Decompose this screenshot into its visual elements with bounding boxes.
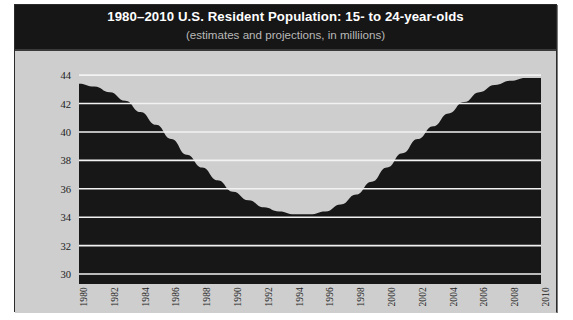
x-tick-label-1986: 1986 <box>171 287 181 307</box>
x-tick-label-2002: 2002 <box>418 287 428 307</box>
y-tick-label-40: 40 <box>60 126 71 137</box>
y-tick-label-30: 30 <box>60 269 71 280</box>
y-axis: 3032343638404244 <box>15 68 75 284</box>
x-tick-label-2006: 2006 <box>479 287 489 307</box>
x-tick-label-1988: 1988 <box>202 287 212 307</box>
y-tick-label-36: 36 <box>60 183 71 194</box>
x-tick-label-1984: 1984 <box>141 287 151 307</box>
area-chart-svg <box>79 68 541 284</box>
x-tick-label-2010: 2010 <box>541 287 551 307</box>
y-tick-label-42: 42 <box>60 98 71 109</box>
x-tick-label-1996: 1996 <box>325 287 335 307</box>
x-tick-label-2008: 2008 <box>510 287 520 307</box>
plot-area <box>79 68 541 284</box>
plot-wrap <box>79 68 541 284</box>
x-tick-label-1982: 1982 <box>110 287 120 307</box>
y-tick-label-44: 44 <box>60 70 71 81</box>
chart-body: 3032343638404244 19801982198419861988199… <box>15 49 556 313</box>
x-axis: 1980198219841986198819901992199419961998… <box>79 287 541 317</box>
x-tick-label-1992: 1992 <box>264 287 274 307</box>
x-tick-label-1980: 1980 <box>79 287 89 307</box>
y-tick-label-32: 32 <box>60 240 71 251</box>
x-tick-label-1998: 1998 <box>356 287 366 307</box>
y-tick-label-38: 38 <box>60 155 71 166</box>
chart-subtitle: (estimates and projections, in milliions… <box>15 28 556 41</box>
x-tick-label-2000: 2000 <box>387 287 397 307</box>
chart-figure: 1980–2010 U.S. Resident Population: 15- … <box>14 4 557 312</box>
x-tick-label-1990: 1990 <box>233 287 243 307</box>
y-tick-label-34: 34 <box>60 212 71 223</box>
x-tick-label-2004: 2004 <box>449 287 459 307</box>
chart-title: 1980–2010 U.S. Resident Population: 15- … <box>15 9 556 24</box>
x-tick-label-1994: 1994 <box>295 287 305 307</box>
chart-header-band: 1980–2010 U.S. Resident Population: 15- … <box>15 5 556 49</box>
